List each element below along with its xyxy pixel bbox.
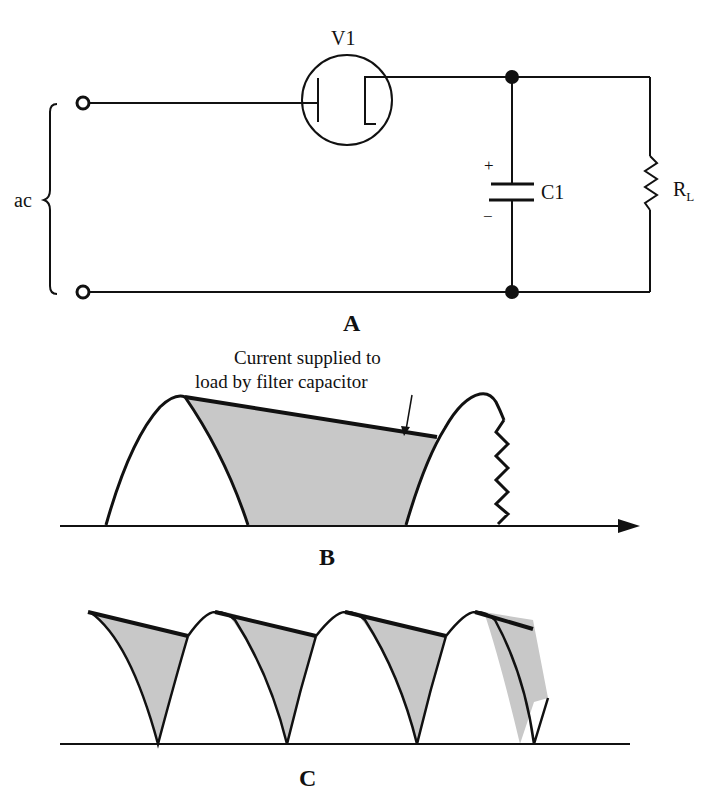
ripple-zigzag	[496, 420, 508, 524]
time-axis-arrowhead	[618, 519, 640, 533]
annotation-line-1: Current supplied to	[234, 347, 381, 368]
panel-label-a: A	[343, 310, 361, 336]
ac-label: ac	[14, 189, 32, 211]
waveform-panel-b	[60, 394, 640, 533]
junction-dot-top	[505, 70, 519, 84]
tube-label: V1	[331, 27, 355, 49]
discharge-region-4	[484, 612, 548, 744]
junction-dot-bottom	[505, 285, 519, 299]
ac-brace	[44, 104, 57, 294]
load-resistor	[645, 156, 657, 210]
capacitor-label: C1	[541, 181, 564, 203]
vacuum-tube-v1	[302, 55, 392, 145]
cap-plus-sign: +	[484, 156, 494, 175]
annotation-line-2: load by filter capacitor	[195, 371, 368, 392]
panel-label-b: B	[319, 544, 335, 570]
circuit-panel-a	[44, 55, 657, 298]
cap-minus-sign: −	[483, 207, 493, 226]
panel-label-c: C	[299, 765, 316, 791]
annotation-arrow-line	[406, 395, 412, 430]
terminal-bottom	[77, 286, 89, 298]
load-label: RL	[673, 178, 694, 204]
waveform-panel-c	[60, 612, 630, 744]
terminal-top	[77, 97, 89, 109]
rectifier-filter-diagram: V1 ac + − C1 RL A Current supplied to lo…	[0, 0, 720, 804]
